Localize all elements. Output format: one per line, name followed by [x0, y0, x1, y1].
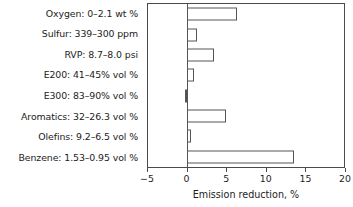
bar: [187, 48, 214, 61]
x-tick-label: 20: [339, 172, 351, 185]
bar-row: [148, 24, 344, 44]
bar: [187, 28, 196, 41]
bar-row: [148, 126, 344, 146]
category-label: Olefins: 9.2–6.5 vol %: [0, 127, 143, 148]
x-axis-tick-labels: −505101520: [147, 172, 345, 185]
category-label: Benzene: 1.53–0.95 vol %: [0, 147, 143, 168]
category-label: E300: 83–90% vol %: [0, 86, 143, 107]
x-tick-label: 15: [299, 172, 311, 185]
x-tick-label: −5: [140, 172, 154, 185]
x-tick-label: 0: [184, 172, 190, 185]
bar: [187, 69, 194, 82]
x-tick-label: 10: [260, 172, 272, 185]
zero-line: [187, 4, 188, 167]
bar: [187, 150, 294, 163]
x-axis-title: Emission reduction, %: [147, 188, 345, 201]
category-label: E200: 41–45% vol %: [0, 65, 143, 86]
category-label: Sulfur: 339–300 ppm: [0, 24, 143, 45]
bar-row: [148, 4, 344, 24]
category-label: Oxygen: 0–2.1 wt %: [0, 3, 143, 24]
bar-row: [148, 45, 344, 65]
bar-row: [148, 65, 344, 85]
bar: [187, 8, 236, 21]
x-tick-label: 5: [223, 172, 229, 185]
chart-figure: Oxygen: 0–2.1 wt %Sulfur: 339–300 ppmRVP…: [0, 0, 353, 207]
bar-row: [148, 86, 344, 106]
category-label: RVP: 8.7–8.0 psi: [0, 44, 143, 65]
bar: [187, 110, 226, 123]
plot-area: [147, 3, 345, 168]
bar-row: [148, 147, 344, 167]
category-axis-labels: Oxygen: 0–2.1 wt %Sulfur: 339–300 ppmRVP…: [0, 3, 143, 168]
bar-series: [148, 4, 344, 167]
category-label: Aromatics: 32–26.3 vol %: [0, 106, 143, 127]
bar-row: [148, 106, 344, 126]
